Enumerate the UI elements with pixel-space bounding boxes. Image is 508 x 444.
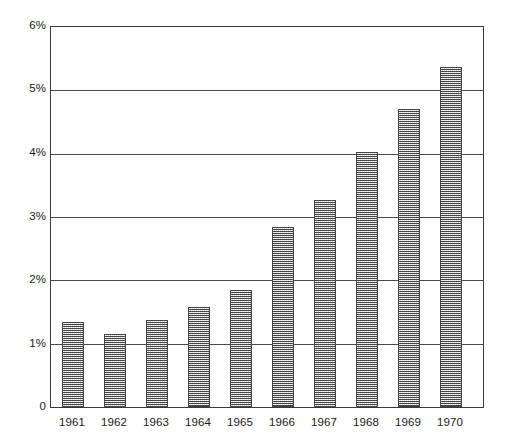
y-axis-tick-label: 2% [6, 274, 46, 286]
y-axis-tick-label: 4% [6, 147, 46, 159]
plot-area [50, 26, 484, 408]
y-axis-tick-label: 5% [6, 83, 46, 95]
y-axis-tick-label: 0 [6, 401, 46, 413]
bar-chart: 6% 5% 4% 3% 2% 1% 0 1961 1962 1963 1964 … [0, 0, 508, 444]
bar-1965 [230, 290, 252, 407]
bar-1966 [272, 227, 294, 407]
bar-1968 [356, 152, 378, 407]
bar-1964 [188, 307, 210, 407]
bar-1962 [104, 334, 126, 407]
bar-1969 [398, 109, 420, 407]
y-axis-tick-label: 6% [6, 20, 46, 32]
bar-1970 [440, 67, 462, 407]
y-axis-tick-label: 3% [6, 211, 46, 223]
y-axis-tick-label: 1% [6, 338, 46, 350]
bars-layer [51, 27, 483, 407]
bar-1961 [62, 322, 84, 408]
bar-1963 [146, 320, 168, 407]
x-axis-tick-label-1970: 1970 [420, 416, 480, 428]
bar-1967 [314, 200, 336, 407]
